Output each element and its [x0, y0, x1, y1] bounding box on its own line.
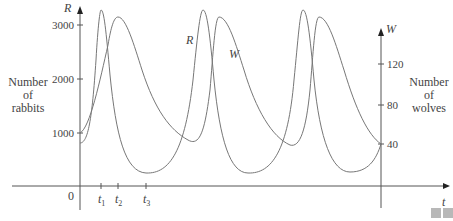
tick-label-80: 80 [387, 99, 399, 111]
tick-label-1000: 1000 [52, 127, 75, 139]
corner-square-icon [443, 208, 453, 218]
left-title-line3: rabbits [4, 102, 52, 115]
wolf-curve [80, 17, 381, 145]
tick-label-2000: 2000 [52, 73, 75, 85]
rabbit-curve [80, 10, 381, 173]
r-axis-label: R [63, 1, 72, 15]
right-axis-title: Number of wolves [405, 76, 453, 115]
w-axis-arrow-icon [378, 28, 384, 36]
w-curve-label: W [229, 47, 240, 61]
w-axis-label: W [386, 22, 397, 36]
t2-label: t2 [115, 192, 122, 208]
chart-canvas: R W t 0 3000 2000 1000 120 80 40 t1 t2 t… [0, 0, 453, 221]
t3-label: t3 [143, 192, 150, 208]
origin-label: 0 [68, 189, 74, 203]
t-axis-arrow-icon [443, 183, 450, 189]
tick-label-120: 120 [387, 58, 404, 70]
tick-label-3000: 3000 [52, 19, 75, 31]
r-axis-arrow-icon [77, 6, 83, 14]
predator-prey-chart: R W t 0 3000 2000 1000 120 80 40 t1 t2 t… [0, 0, 453, 221]
tick-label-40: 40 [387, 138, 399, 150]
right-title-line3: wolves [405, 102, 453, 115]
r-curve-label: R [185, 33, 194, 47]
left-axis-title: Number of rabbits [4, 76, 52, 115]
corner-square-icon [431, 208, 441, 218]
t1-label: t1 [98, 192, 105, 208]
t-axis-label: t [442, 195, 446, 209]
